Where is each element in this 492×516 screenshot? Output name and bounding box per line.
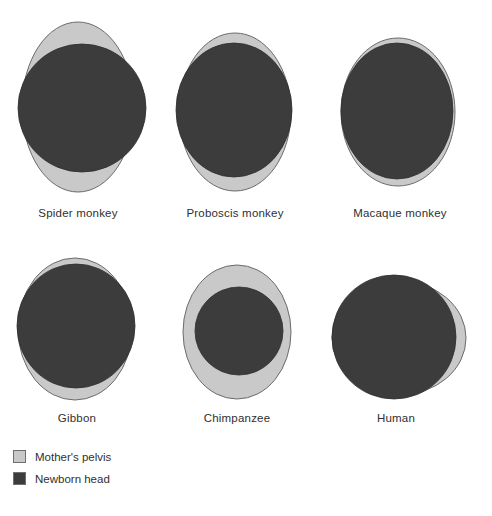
legend-item-mothers-pelvis: Mother's pelvis (13, 447, 111, 466)
panel-macaque-monkey (341, 38, 455, 186)
caption-human: Human (150, 412, 492, 424)
newborn-head-proboscis-monkey (176, 43, 292, 177)
newborn-head-macaque-monkey (341, 43, 453, 179)
legend-item-newborn-head: Newborn head (13, 469, 111, 488)
caption-macaque-monkey: Macaque monkey (154, 207, 492, 219)
legend-label-newborn-head: Newborn head (35, 473, 110, 485)
panel-proboscis-monkey (176, 33, 292, 191)
legend-label-mothers-pelvis: Mother's pelvis (35, 451, 111, 463)
legend-swatch-pelvis-icon (13, 450, 26, 463)
panel-chimpanzee (183, 265, 291, 399)
panel-gibbon (17, 258, 135, 400)
comparative-pelvis-head-figure: Spider monkey Proboscis monkey Macaque m… (0, 0, 492, 516)
newborn-head-spider-monkey (18, 44, 146, 172)
newborn-head-chimpanzee (195, 287, 283, 375)
legend-swatch-head-icon (13, 472, 26, 485)
legend: Mother's pelvis Newborn head (13, 447, 111, 491)
panel-human (332, 275, 466, 399)
panel-spider-monkey (18, 22, 146, 192)
primate-birth-canal-diagram (0, 0, 492, 440)
newborn-head-gibbon (17, 264, 135, 388)
newborn-head-human (332, 275, 456, 399)
